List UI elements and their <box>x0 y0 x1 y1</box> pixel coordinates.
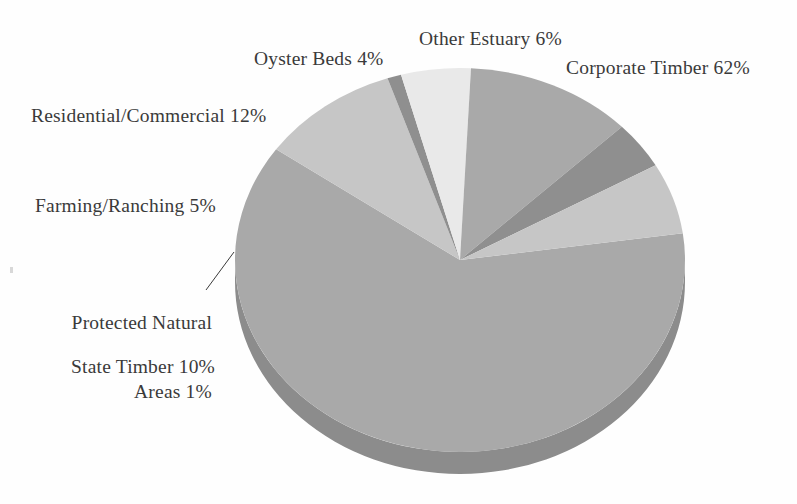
slice-label-state-timber: State Timber 10% <box>71 355 215 378</box>
scan-artifact-speck <box>10 267 13 273</box>
slice-label-oyster-beds: Oyster Beds 4% <box>254 47 384 70</box>
slice-label-protected-natural-areas-line2: Areas 1% <box>42 380 212 403</box>
slice-label-corporate-timber: Corporate Timber 62% <box>566 56 750 79</box>
slice-label-other-estuary: Other Estuary 6% <box>419 27 562 50</box>
slice-label-farming-ranching: Farming/Ranching 5% <box>35 194 216 217</box>
slice-label-protected-natural-areas-line1: Protected Natural <box>42 311 212 334</box>
slice-label-residential-commercial: Residential/Commercial 12% <box>31 104 266 127</box>
pie-top-faces <box>235 68 685 452</box>
pie-chart-figure: Corporate Timber 62% Other Estuary 6% Oy… <box>0 0 797 504</box>
